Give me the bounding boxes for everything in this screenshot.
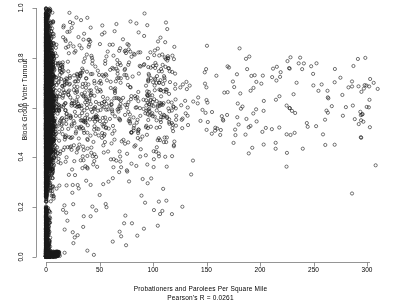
x-tick-label-0: 0 bbox=[44, 266, 48, 273]
y-tick-label-0.4: 0.4 bbox=[17, 153, 24, 162]
x-tick-label-250: 250 bbox=[308, 266, 319, 273]
x-tick-label-300: 300 bbox=[362, 266, 373, 273]
scatter-plot-figure: Block Group Voter Turnout Probationers a… bbox=[0, 0, 401, 306]
y-tick-label-0.6: 0.6 bbox=[17, 103, 24, 112]
x-axis-label: Probationers and Parolees Per Square Mil… bbox=[0, 285, 401, 292]
scatter-plot-canvas bbox=[0, 0, 401, 306]
x-tick-label-100: 100 bbox=[148, 266, 159, 273]
x-tick-label-200: 200 bbox=[255, 266, 266, 273]
pearson-r-annotation: Pearson's R = 0.0261 bbox=[0, 294, 401, 301]
y-tick-label-0.2: 0.2 bbox=[17, 203, 24, 212]
x-tick-label-50: 50 bbox=[96, 266, 103, 273]
y-tick-label-1.0: 1.0 bbox=[17, 3, 24, 12]
x-tick-label-150: 150 bbox=[201, 266, 212, 273]
y-tick-label-0.8: 0.8 bbox=[17, 53, 24, 62]
y-tick-label-0.0: 0.0 bbox=[17, 252, 24, 261]
